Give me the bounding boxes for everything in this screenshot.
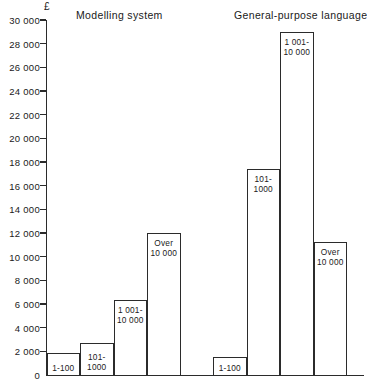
bar-category-label: 1-100 <box>219 363 241 373</box>
y-axis-tick-label: 2 000 <box>0 346 40 357</box>
bar: 1-100 <box>213 357 247 375</box>
y-axis-tick-labels: 02 0004 0006 0008 00010 00012 00014 0001… <box>0 0 40 389</box>
y-axis-tick <box>40 67 46 68</box>
bar-chart: £ 02 0004 0006 0008 00010 00012 00014 00… <box>0 0 367 389</box>
y-axis-tick <box>40 90 46 91</box>
y-axis-tick <box>40 43 46 44</box>
bar: Over10 000 <box>314 242 348 375</box>
bar-category-label: 1 001-10 000 <box>283 37 310 57</box>
bar-category-label: Over10 000 <box>317 247 344 267</box>
y-axis-tick-label: 4 000 <box>0 322 40 333</box>
bar-category-label: 101-1000 <box>254 174 273 194</box>
y-axis-tick-label: 20 000 <box>0 133 40 144</box>
y-axis-tick <box>40 232 46 233</box>
bar: Over10 000 <box>147 233 181 375</box>
y-axis-tick-label: 30 000 <box>0 15 40 26</box>
y-axis-tick <box>40 256 46 257</box>
y-axis-tick-label: 8 000 <box>0 275 40 286</box>
y-axis-tick <box>40 138 46 139</box>
bar-category-label: Over10 000 <box>150 238 177 258</box>
y-axis-tick-label: 0 <box>0 370 40 381</box>
y-axis-tick <box>40 19 46 20</box>
y-axis-unit-label: £ <box>44 1 50 12</box>
y-axis-tick <box>40 327 46 328</box>
y-axis-tick <box>40 209 46 210</box>
y-axis-tick-label: 10 000 <box>0 251 40 262</box>
y-axis-tick-label: 26 000 <box>0 62 40 73</box>
x-axis-line <box>46 375 364 376</box>
y-axis-tick-label: 16 000 <box>0 180 40 191</box>
y-axis-line <box>46 20 47 376</box>
y-axis-tick <box>40 114 46 115</box>
y-axis-tick-label: 18 000 <box>0 157 40 168</box>
y-axis-tick <box>40 280 46 281</box>
y-axis-tick <box>40 303 46 304</box>
group-title-0: Modelling system <box>76 9 163 21</box>
y-axis-tick <box>40 351 46 352</box>
bar: 1 001-10 000 <box>114 300 148 375</box>
bar: 1 001-10 000 <box>280 32 314 375</box>
y-axis-tick <box>40 161 46 162</box>
group-title-1: General-purpose language <box>234 9 367 21</box>
bar-category-label: 1-100 <box>52 363 74 373</box>
y-axis-tick-label: 14 000 <box>0 204 40 215</box>
y-axis-tick-label: 22 000 <box>0 109 40 120</box>
y-axis-tick-label: 6 000 <box>0 299 40 310</box>
y-axis-tick <box>40 185 46 186</box>
bar: 101-1000 <box>247 169 281 375</box>
bar: 1-100 <box>47 353 81 375</box>
bar-category-label: 101-1000 <box>87 352 106 372</box>
y-axis-tick-label: 24 000 <box>0 86 40 97</box>
y-axis-tick-label: 12 000 <box>0 228 40 239</box>
y-axis-tick-label: 28 000 <box>0 38 40 49</box>
bar-category-label: 1 001-10 000 <box>117 305 144 325</box>
bar: 101-1000 <box>80 343 114 375</box>
